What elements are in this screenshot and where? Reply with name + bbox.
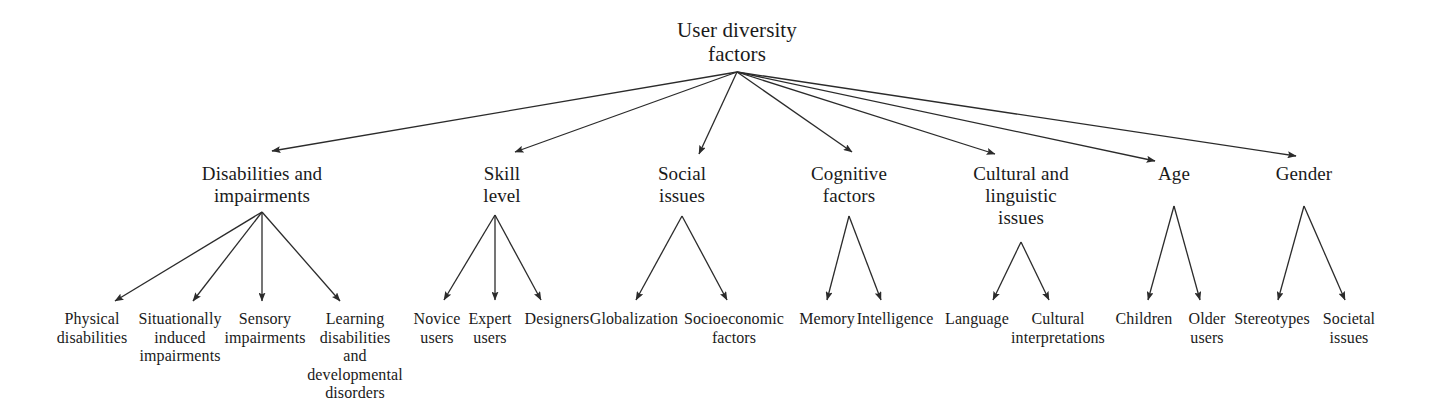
edge-cultural-and-linguistic-issues-to-cultural-interpretations [1021, 242, 1049, 300]
edge-cognitive-factors-to-intelligence [849, 216, 881, 300]
leaf-node-socioeconomic-factors: Socioeconomic factors [664, 310, 804, 347]
diagram-canvas: User diversity factorsDisabilities and i… [0, 0, 1434, 400]
leaf-node-learning-disabilities-and-developmental-disorders: Learning disabilities and developmental … [295, 310, 415, 400]
edge-root-to-social-issues [699, 72, 737, 154]
edge-root-to-skill-level [515, 72, 737, 152]
edge-skill-level-to-novice-users [444, 215, 495, 300]
edge-disabilities-and-impairments-to-learning-disabilities-and-developmental-disorders [262, 212, 340, 301]
root-node-user-diversity-factors: User diversity factors [617, 18, 857, 67]
leaf-node-societal-issues: Societal issues [1306, 310, 1392, 347]
edge-age-to-children [1148, 206, 1174, 300]
branch-node-disabilities-and-impairments: Disabilities and impairments [147, 163, 377, 207]
edge-skill-level-to-designers [495, 215, 541, 300]
branch-node-age: Age [1129, 163, 1219, 185]
edge-root-to-cognitive-factors [737, 72, 852, 152]
edge-cultural-and-linguistic-issues-to-language [993, 242, 1021, 300]
edge-social-issues-to-socioeconomic-factors [682, 216, 727, 300]
edge-root-to-cultural-and-linguistic-issues [737, 72, 995, 154]
edge-disabilities-and-impairments-to-physical-disabilities [115, 212, 262, 301]
edge-disabilities-and-impairments-to-situationally-induced-impairments [193, 212, 262, 301]
edge-age-to-older-users [1174, 206, 1200, 300]
edge-root-to-disabilities-and-impairments [272, 72, 737, 151]
edge-gender-to-stereotypes [1278, 206, 1304, 300]
edge-root-to-age [737, 72, 1155, 161]
branch-node-skill-level: Skill level [442, 163, 562, 207]
branch-node-social-issues: Social issues [622, 163, 742, 207]
branch-node-gender: Gender [1249, 163, 1359, 185]
branch-node-cognitive-factors: Cognitive factors [774, 163, 924, 207]
edge-root-to-gender [737, 72, 1296, 156]
edge-cognitive-factors-to-memory [827, 216, 849, 300]
branch-node-cultural-and-linguistic-issues: Cultural and linguistic issues [941, 163, 1101, 229]
edge-social-issues-to-globalization [636, 216, 682, 300]
edge-gender-to-societal-issues [1304, 206, 1345, 300]
